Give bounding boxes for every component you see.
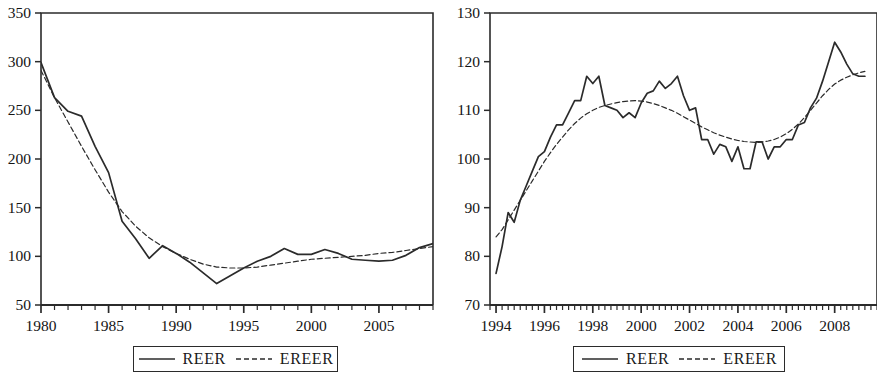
dashed-line-icon bbox=[678, 354, 716, 364]
x-tick-label: 1994 bbox=[481, 317, 512, 334]
series-group bbox=[41, 63, 433, 284]
y-tick-label: 150 bbox=[8, 199, 32, 216]
x-tick-label: 1990 bbox=[161, 317, 192, 334]
series-line-reer bbox=[41, 63, 433, 284]
x-tick-label: 1985 bbox=[93, 317, 124, 334]
x-tick-label: 2004 bbox=[722, 317, 753, 334]
legend-entry-ereer-right: EREER bbox=[678, 350, 777, 368]
x-tick-label: 2008 bbox=[819, 317, 850, 334]
y-tick-label: 90 bbox=[465, 199, 481, 216]
x-tick-label: 1996 bbox=[529, 317, 560, 334]
solid-line-icon bbox=[581, 354, 619, 364]
series-line-reer bbox=[496, 42, 865, 273]
y-tick-label: 130 bbox=[457, 4, 481, 21]
y-tick-label: 250 bbox=[8, 101, 32, 118]
y-tick-label: 100 bbox=[8, 247, 32, 264]
y-tick-label: 110 bbox=[457, 101, 480, 118]
line-chart-left: 3503002502001501005019801985199019952000… bbox=[0, 0, 440, 340]
dashed-line-icon bbox=[235, 354, 273, 364]
legend-right: REER EREER bbox=[573, 346, 785, 372]
legend-left: REER EREER bbox=[133, 346, 338, 372]
x-tick-label: 1980 bbox=[26, 317, 57, 334]
legend-label-ereer: EREER bbox=[280, 350, 334, 368]
chart-panel-left: 3503002502001501005019801985199019952000… bbox=[0, 0, 440, 378]
legend-entry-reer-right: REER bbox=[581, 350, 669, 368]
legend-entry-reer-left: REER bbox=[138, 350, 226, 368]
legend-label-reer: REER bbox=[626, 350, 669, 368]
chart-panel-right: 1301201101009080701994199619982000200220… bbox=[440, 0, 877, 378]
y-tick-label: 120 bbox=[457, 53, 481, 70]
y-tick-label: 300 bbox=[8, 53, 32, 70]
series-group bbox=[496, 42, 865, 273]
legend-entry-ereer-left: EREER bbox=[235, 350, 334, 368]
figure-two-line-charts: 3503002502001501005019801985199019952000… bbox=[0, 0, 877, 378]
x-tick-label: 2006 bbox=[771, 317, 802, 334]
y-tick-label: 350 bbox=[8, 4, 32, 21]
series-line-ereer bbox=[496, 71, 865, 236]
solid-line-icon bbox=[138, 354, 176, 364]
y-tick-label: 50 bbox=[16, 296, 32, 313]
line-chart-right: 1301201101009080701994199619982000200220… bbox=[440, 0, 877, 340]
x-tick-label: 2005 bbox=[363, 317, 394, 334]
y-tick-label: 70 bbox=[465, 296, 481, 313]
x-tick-label: 1998 bbox=[577, 317, 608, 334]
series-line-ereer bbox=[41, 70, 433, 268]
plot-frame bbox=[490, 13, 877, 305]
x-tick-label: 1995 bbox=[228, 317, 259, 334]
y-tick-label: 200 bbox=[8, 150, 32, 167]
y-tick-label: 100 bbox=[457, 150, 481, 167]
legend-label-ereer: EREER bbox=[723, 350, 777, 368]
y-tick-label: 80 bbox=[465, 247, 481, 264]
legend-label-reer: REER bbox=[183, 350, 226, 368]
x-tick-label: 2000 bbox=[626, 317, 657, 334]
x-tick-label: 2002 bbox=[674, 317, 705, 334]
x-tick-label: 2000 bbox=[296, 317, 327, 334]
